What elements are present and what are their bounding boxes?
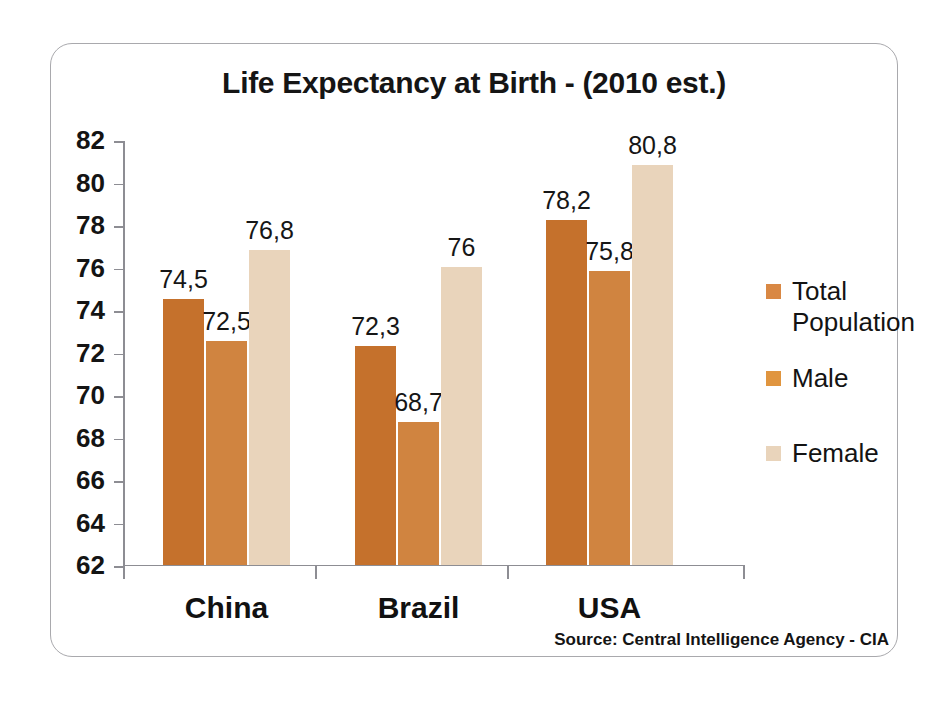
y-axis-tick-label: 68 <box>13 422 105 453</box>
bar[interactable]: 76 <box>441 267 482 565</box>
category-separator-tick <box>315 566 317 579</box>
bar[interactable]: 72,5 <box>206 341 247 564</box>
legend-swatch-icon <box>766 446 781 461</box>
bar[interactable]: 72,3 <box>355 346 396 565</box>
category-separator-tick <box>507 566 509 579</box>
chart-title: Life Expectancy at Birth - (2010 est.) <box>51 66 897 100</box>
bar-value-label: 74,5 <box>159 265 208 294</box>
legend-label: Female <box>792 438 879 469</box>
legend-label: Male <box>792 363 848 394</box>
plot-area: 8280787674727068666462 74,572,576,872,36… <box>123 141 745 566</box>
y-axis-tick-label: 66 <box>13 465 105 496</box>
y-axis-tick <box>114 566 123 568</box>
bar[interactable]: 75,8 <box>589 271 630 564</box>
y-axis-tick-label: 80 <box>13 167 105 198</box>
y-axis-tick-label: 72 <box>13 337 105 368</box>
bar-value-label: 78,2 <box>542 186 591 215</box>
y-axis-tick <box>114 439 123 441</box>
y-axis-tick <box>114 184 123 186</box>
y-axis-tick-label: 82 <box>13 125 105 156</box>
y-axis-tick-label: 74 <box>13 295 105 326</box>
legend-item-male[interactable]: Male <box>766 363 916 394</box>
bar-value-label: 72,3 <box>351 312 400 341</box>
y-axis-tick-label: 64 <box>13 507 105 538</box>
bar-value-label: 72,5 <box>202 307 251 336</box>
y-axis-tick-label: 76 <box>13 252 105 283</box>
legend-item-total-population[interactable]: Total Population <box>766 276 916 337</box>
chart-card: Life Expectancy at Birth - (2010 est.) 8… <box>50 43 898 657</box>
bar-value-label: 68,7 <box>394 388 443 417</box>
source-note: Source: Central Intelligence Agency - CI… <box>554 630 889 650</box>
category-label: Brazil <box>378 591 460 625</box>
y-axis-tick <box>114 226 123 228</box>
bar-value-label: 76 <box>448 233 476 262</box>
y-axis-tick <box>114 524 123 526</box>
y-axis-tick <box>114 269 123 271</box>
bar[interactable]: 76,8 <box>249 250 290 565</box>
y-axis-tick-label: 70 <box>13 380 105 411</box>
category-separator-tick <box>123 566 125 579</box>
bar-value-label: 80,8 <box>628 131 677 160</box>
bar-value-label: 76,8 <box>245 216 294 245</box>
y-axis-tick <box>114 354 123 356</box>
y-axis-tick <box>114 481 123 483</box>
y-axis-tick <box>114 396 123 398</box>
legend-swatch-icon <box>766 371 781 386</box>
y-axis-tick-label: 78 <box>13 210 105 241</box>
y-axis-tick <box>114 141 123 143</box>
y-axis-tick-label: 62 <box>13 550 105 581</box>
bar[interactable]: 74,5 <box>163 299 204 565</box>
chart-legend: Total Population Male Female <box>766 276 916 495</box>
category-label: China <box>185 591 268 625</box>
bar[interactable]: 68,7 <box>398 422 439 564</box>
bar-value-label: 75,8 <box>585 237 634 266</box>
bar[interactable]: 78,2 <box>546 220 587 564</box>
y-axis-tick <box>114 311 123 313</box>
x-axis-line <box>123 565 745 567</box>
category-label: USA <box>578 591 641 625</box>
bar[interactable]: 80,8 <box>632 165 673 565</box>
legend-item-female[interactable]: Female <box>766 438 916 469</box>
category-separator-tick <box>743 566 745 579</box>
legend-label: Total Population <box>792 276 916 337</box>
legend-swatch-icon <box>766 284 781 299</box>
y-axis-line <box>123 141 125 566</box>
